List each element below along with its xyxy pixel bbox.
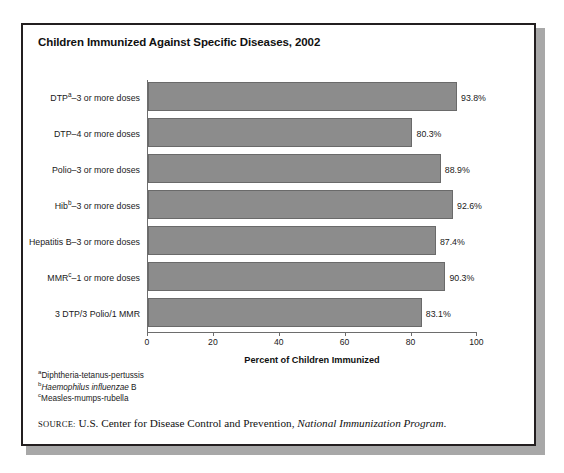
footnotes-block: aDiphtheria-tetanus-pertussis bHaemophil… (38, 370, 144, 405)
x-tick-0 (147, 332, 148, 336)
bar-value-label: 92.6% (457, 201, 482, 211)
x-tick-60 (345, 332, 346, 336)
x-tick-label-60: 60 (340, 337, 350, 347)
bar-value-label: 80.3% (417, 129, 442, 139)
bar (148, 118, 412, 147)
x-axis-line (147, 332, 476, 333)
footnote-c: cMeasles-mumps-rubella (38, 393, 144, 405)
source-label: SOURCE: (38, 419, 76, 429)
bar (148, 298, 422, 327)
bar-category-label: MMRc–1 or more doses (47, 273, 140, 283)
bar-value-label: 93.8% (461, 93, 486, 103)
bar-row: 3 DTP/3 Polio/1 MMR 83.1% (23, 296, 534, 332)
bar-row: Polio–3 or more doses 88.9% (23, 152, 534, 188)
x-axis-title: Percent of Children Immunized (147, 355, 477, 365)
bar-value-label: 88.9% (445, 165, 470, 175)
bar-row: Hibb–3 or more doses 92.6% (23, 188, 534, 224)
bar (148, 154, 441, 183)
bar-category-main: DTP (50, 93, 68, 103)
x-tick-80 (411, 332, 412, 336)
source-line: SOURCE: U.S. Center for Disease Control … (38, 417, 446, 429)
x-tick-label-100: 100 (469, 337, 483, 347)
source-text: U.S. Center for Disease Control and Prev… (76, 417, 298, 429)
x-tick-label-40: 40 (274, 337, 284, 347)
x-tick-100 (476, 332, 477, 336)
footnote-a: aDiphtheria-tetanus-pertussis (38, 370, 144, 382)
bar-category-label: DTPa–3 or more doses (50, 93, 140, 103)
footnote-b-tail: B (129, 383, 137, 392)
bar-category-label: 3 DTP/3 Polio/1 MMR (55, 309, 140, 319)
bar-category-rest: –3 or more doses (72, 93, 140, 103)
bar (148, 262, 445, 291)
bar (148, 190, 453, 219)
footnote-c-text: Measles-mumps-rubella (41, 394, 128, 403)
source-program-name: National Immunization Program (297, 417, 443, 429)
bar-category-label: Hepatitis B–3 or more doses (29, 237, 140, 247)
bar-category-label: DTP–4 or more doses (54, 129, 140, 139)
bar-category-main: DTP (54, 129, 72, 139)
x-tick-label-80: 80 (406, 337, 416, 347)
bar-category-rest: –1 or more doses (72, 273, 140, 283)
footnote-a-text: Diphtheria-tetanus-pertussis (41, 371, 143, 380)
bar-value-label: 90.3% (449, 273, 474, 283)
bar-value-label: 83.1% (426, 309, 451, 319)
bar-category-label: Polio–3 or more doses (52, 165, 140, 175)
bar-category-main: Hepatitis B (29, 237, 72, 247)
bar (148, 226, 436, 255)
bar-category-rest: –3 or more doses (72, 201, 140, 211)
bar-row: MMRc–1 or more doses 90.3% (23, 260, 534, 296)
footnote-b: bHaemophilus influenzae B (38, 382, 144, 394)
bar-row: DTPa–3 or more doses 93.8% (23, 80, 534, 116)
bar-value-label: 87.4% (440, 237, 465, 247)
x-tick-20 (213, 332, 214, 336)
chart-figure-frame: Children Immunized Against Specific Dise… (21, 23, 536, 446)
source-tail: . (444, 417, 447, 429)
bar-rows: DTPa–3 or more doses 93.8% DTP–4 or more… (23, 80, 534, 332)
footnote-b-italic: Haemophilus influenzae (41, 383, 128, 392)
bar-category-main: MMR (47, 273, 68, 283)
x-tick-label-0: 0 (145, 337, 150, 347)
bar-category-rest: –3 or more doses (72, 165, 140, 175)
bar-category-label: Hibb–3 or more doses (55, 201, 140, 211)
x-tick-label-20: 20 (208, 337, 218, 347)
chart-title: Children Immunized Against Specific Dise… (38, 36, 320, 48)
bar-category-main: 3 DTP/3 Polio/1 MMR (55, 309, 140, 319)
plot-area: DTPa–3 or more doses 93.8% DTP–4 or more… (23, 80, 534, 342)
bar-row: Hepatitis B–3 or more doses 87.4% (23, 224, 534, 260)
x-tick-40 (279, 332, 280, 336)
bar (148, 82, 457, 111)
bar-category-rest: –4 or more doses (72, 129, 140, 139)
bar-row: DTP–4 or more doses 80.3% (23, 116, 534, 152)
bar-category-rest: –3 or more doses (72, 237, 140, 247)
bar-category-main: Polio (52, 165, 72, 175)
bar-category-main: Hib (55, 201, 68, 211)
